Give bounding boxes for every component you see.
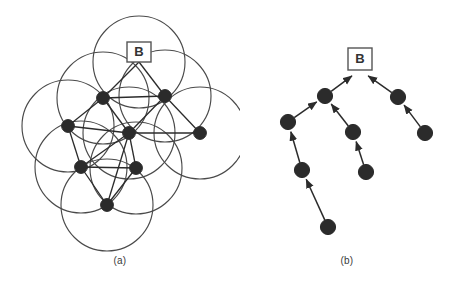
tree-edge-arrow xyxy=(291,132,300,163)
tree-node xyxy=(358,164,373,179)
panel-b-caption: (b) xyxy=(240,255,454,266)
tree-edge-arrow xyxy=(356,142,364,165)
graph-node xyxy=(159,90,172,103)
graph-edge xyxy=(103,96,165,98)
tree-edge-arrow xyxy=(294,102,317,118)
panel-a-caption: (a) xyxy=(0,255,240,266)
panel-a-canvas: B xyxy=(0,0,240,284)
graph-edge xyxy=(129,96,165,133)
tree-node xyxy=(294,162,309,177)
graph-edge xyxy=(81,167,107,205)
graph-node xyxy=(123,127,136,140)
graph-edge xyxy=(81,167,136,168)
graph-node xyxy=(62,120,75,133)
graph-node xyxy=(101,199,114,212)
tree-node xyxy=(280,114,295,129)
graph-node xyxy=(75,161,88,174)
graph-edge xyxy=(68,126,129,133)
tree-edge-arrow xyxy=(404,105,420,127)
tree-node xyxy=(317,88,332,103)
tree-node xyxy=(417,125,432,140)
root-box-label-b: B xyxy=(355,51,364,66)
graph-edge xyxy=(165,96,200,133)
figure-root: B (a) B (b) xyxy=(0,0,454,284)
tree-edge-arrow xyxy=(331,76,352,92)
panel-a-disk-graph: B (a) xyxy=(0,0,240,284)
graph-node xyxy=(130,162,143,175)
graph-edge xyxy=(103,62,139,98)
tree-edge-arrow xyxy=(368,76,392,93)
root-label-box-b: B xyxy=(348,48,372,70)
root-box-label-a: B xyxy=(134,44,143,59)
graph-node xyxy=(97,92,110,105)
tree-node xyxy=(345,124,360,139)
panel-b-spanning-tree: B (b) xyxy=(240,0,454,284)
graph-edge xyxy=(107,168,136,205)
tree-node xyxy=(320,219,335,234)
root-label-box-a: B xyxy=(127,42,151,62)
graph-node xyxy=(194,127,207,140)
tree-edge-arrow xyxy=(331,104,348,126)
tree-node-group xyxy=(280,88,432,234)
tree-node xyxy=(390,89,405,104)
panel-b-canvas: B xyxy=(240,0,454,284)
tree-edge-arrow xyxy=(306,179,325,220)
